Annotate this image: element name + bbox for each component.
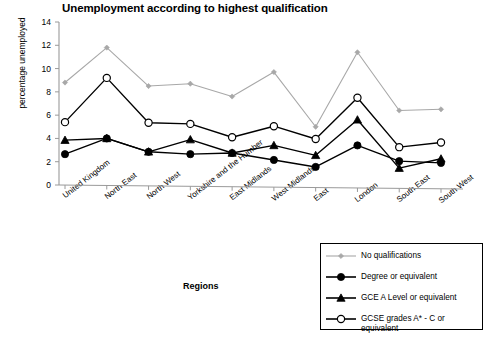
series-line xyxy=(65,120,441,168)
legend-label: GCSE grades A* - C or equivalent xyxy=(361,311,445,333)
data-point-open-circle xyxy=(337,315,344,322)
data-point-diamond xyxy=(188,81,193,86)
series-line xyxy=(65,78,441,147)
data-point-circle xyxy=(354,142,361,149)
data-point-open-circle xyxy=(437,139,444,146)
data-point-circle xyxy=(103,135,110,142)
filled-circle-marker xyxy=(321,269,361,285)
data-point-open-circle xyxy=(396,144,403,151)
data-point-diamond xyxy=(338,253,343,258)
diamond-marker xyxy=(321,248,361,264)
series-3 xyxy=(61,74,444,150)
data-point-circle xyxy=(270,156,277,163)
data-point-open-circle xyxy=(145,119,152,126)
legend-label: Degree or equivalent xyxy=(361,269,437,282)
data-point-circle xyxy=(437,159,444,166)
data-point-circle xyxy=(229,149,236,156)
series-0 xyxy=(62,45,443,129)
data-point-open-circle xyxy=(354,94,361,101)
legend-item: Degree or equivalent xyxy=(321,269,482,290)
legend-label: GCE A Level or equivalent xyxy=(361,290,457,303)
data-point-diamond xyxy=(438,107,443,112)
data-point-open-circle xyxy=(270,123,277,130)
data-point-triangle xyxy=(186,135,194,142)
data-point-open-circle xyxy=(103,74,110,81)
data-point-circle xyxy=(396,158,403,165)
data-point-circle xyxy=(312,163,319,170)
data-point-open-circle xyxy=(312,135,319,142)
chart-legend: No qualificationsDegree or equivalentGCE… xyxy=(320,243,483,330)
series-1 xyxy=(61,135,444,171)
filled-triangle-marker xyxy=(321,290,361,306)
x-axis-line xyxy=(59,185,463,189)
open-circle-marker xyxy=(321,311,361,327)
data-point-diamond xyxy=(230,94,235,99)
chart-container: Unemployment according to highest qualif… xyxy=(0,0,489,346)
legend-item: No qualifications xyxy=(321,248,482,269)
data-point-circle xyxy=(61,151,68,158)
legend-label: No qualifications xyxy=(361,248,421,261)
legend-item: GCE A Level or equivalent xyxy=(321,290,482,311)
series-line xyxy=(65,138,441,167)
series-line xyxy=(65,48,441,127)
series-2 xyxy=(61,116,445,172)
data-point-circle xyxy=(337,273,344,280)
data-point-triangle xyxy=(270,141,278,148)
data-point-open-circle xyxy=(229,134,236,141)
data-point-circle xyxy=(187,151,194,158)
data-point-circle xyxy=(145,148,152,155)
data-point-open-circle xyxy=(61,119,68,126)
legend-item: GCSE grades A* - C or equivalent xyxy=(321,311,482,332)
data-point-triangle xyxy=(353,116,361,123)
data-point-open-circle xyxy=(187,120,194,127)
